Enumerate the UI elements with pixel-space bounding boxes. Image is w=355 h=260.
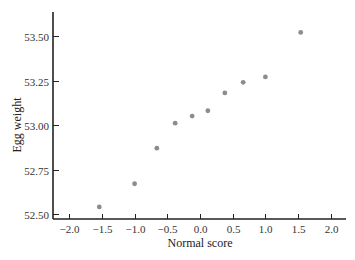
x-tick-label: 1.0 (259, 223, 273, 235)
x-tick-label: −1.5 (93, 223, 113, 235)
y-axis-label: Egg weight (10, 97, 24, 153)
normal-probability-plot: 52.5052.7553.0053.2553.50 −2.0−1.5−1.0−0… (0, 0, 355, 260)
x-tick-label: 0.5 (227, 223, 241, 235)
data-point (132, 181, 137, 186)
data-point (205, 108, 210, 113)
data-point (190, 114, 195, 119)
data-point (263, 75, 268, 80)
data-point (241, 80, 246, 85)
y-tick-label: 53.50 (24, 31, 49, 43)
data-point (298, 30, 303, 35)
x-tick-label: −2.0 (60, 223, 80, 235)
x-axis: −2.0−1.5−1.0−0.50.00.51.01.52.0 (53, 214, 346, 235)
x-tick-label: 1.5 (292, 223, 306, 235)
data-point (97, 204, 102, 209)
data-point (173, 121, 178, 126)
x-tick-label: −1.0 (126, 223, 146, 235)
y-axis: 52.5052.7553.0053.2553.50 (24, 12, 59, 221)
data-points (97, 30, 303, 209)
y-tick-label: 53.25 (24, 76, 49, 88)
y-tick-label: 52.75 (24, 165, 49, 177)
x-axis-label: Normal score (168, 236, 233, 250)
data-point (222, 91, 227, 96)
y-tick-label: 52.50 (24, 209, 49, 221)
x-tick-label: 2.0 (325, 223, 339, 235)
data-point (154, 146, 159, 151)
x-tick-label: −0.5 (158, 223, 178, 235)
y-tick-label: 53.00 (24, 120, 49, 132)
x-tick-label: 0.0 (194, 223, 208, 235)
